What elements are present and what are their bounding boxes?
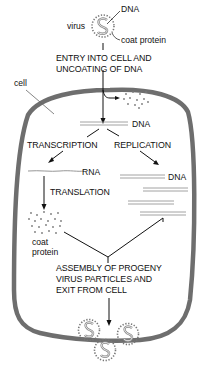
entry-label-line2: UNCOATING OF DNA — [56, 64, 142, 74]
cell-label: cell — [14, 78, 27, 88]
coat-protein-label-line2: protein — [32, 247, 58, 257]
replication-arrow — [107, 129, 119, 136]
coat-protein-dots — [28, 211, 62, 234]
dna-label-center: DNA — [132, 119, 150, 129]
dna-strand-center — [80, 122, 128, 125]
replication-label: REPLICATION — [114, 140, 171, 150]
transcription-arrow — [87, 129, 99, 137]
coat-protein-label-line1: coat — [32, 237, 48, 247]
assembly-label-line2: VIRUS PARTICLES AND — [56, 274, 152, 284]
released-coat-protein-dots — [123, 91, 149, 109]
entry-arrow-head — [101, 118, 106, 124]
dna-label-top: DNA — [121, 4, 139, 14]
translation-arrow-head — [42, 204, 47, 210]
entry-label-line1: ENTRY INTO CELL AND — [56, 53, 152, 63]
coat-protein-pointer-line — [112, 33, 120, 40]
assembly-converge-lines — [64, 218, 163, 257]
transcription-label: TRANSCRIPTION — [27, 140, 98, 150]
uncoating-arrow-head — [115, 96, 120, 100]
coat-protein-label-top: coat protein — [121, 35, 166, 45]
rna-label: RNA — [82, 167, 100, 177]
rna-strand — [28, 171, 84, 172]
assembly-label-line3: EXIT FROM CELL — [56, 285, 127, 295]
dna-label-replicated: DNA — [168, 172, 186, 182]
translation-label: TRANSLATION — [50, 187, 110, 197]
replication-arrow-lower — [140, 151, 155, 162]
exit-arrow-head — [107, 320, 112, 326]
assembly-label-line1: ASSEMBLY OF PROGENY — [56, 263, 162, 273]
virus-icon — [92, 15, 114, 37]
virus-label: virus — [67, 21, 85, 31]
